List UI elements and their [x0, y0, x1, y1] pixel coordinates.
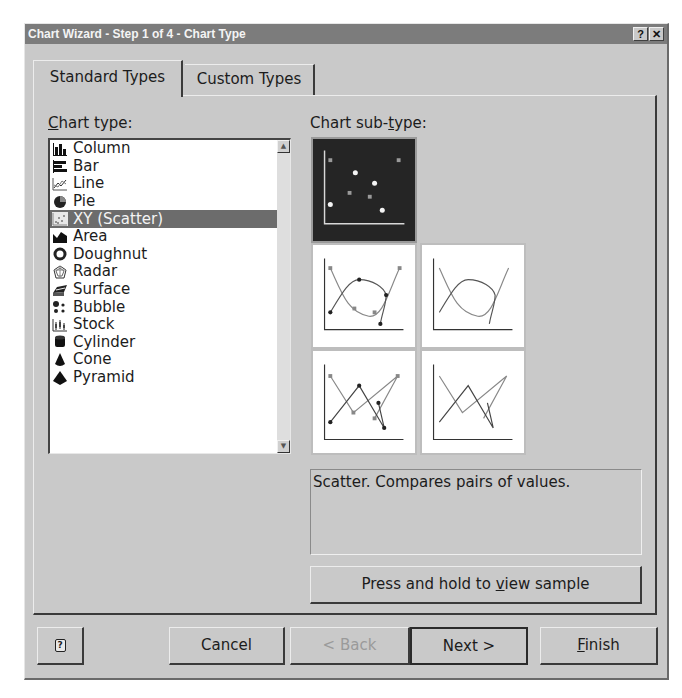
- list-item-label: Pie: [73, 193, 95, 210]
- scroll-up-button[interactable]: ▲: [277, 140, 290, 153]
- list-item-label: XY (Scatter): [73, 211, 163, 228]
- column-chart-icon: [52, 142, 68, 156]
- description-text: Scatter. Compares pairs of values.: [313, 473, 570, 491]
- back-button[interactable]: < Back: [290, 627, 410, 665]
- pie-chart-icon: [52, 195, 68, 209]
- list-item-label: Surface: [73, 281, 130, 298]
- list-item-label: Radar: [73, 263, 117, 280]
- scatter-chart-icon: [52, 212, 68, 226]
- tab-standard-types[interactable]: Standard Types: [33, 60, 183, 97]
- chart-type-listbox[interactable]: Column Bar Line Pie XY (Scatter): [48, 138, 291, 454]
- list-item-xy-scatter[interactable]: XY (Scatter): [50, 210, 279, 228]
- list-item-label: Bubble: [73, 299, 125, 316]
- list-item-bubble[interactable]: Bubble: [50, 298, 279, 316]
- chart-wizard-dialog: Chart Wizard - Step 1 of 4 - Chart Type …: [24, 23, 669, 680]
- scatter-lines-thumbnail-icon: [422, 351, 524, 453]
- stock-chart-icon: [52, 318, 68, 332]
- radar-chart-icon: [52, 265, 68, 279]
- pyramid-chart-icon: [52, 371, 68, 385]
- finish-button[interactable]: Finish: [540, 627, 658, 665]
- list-item-label: Column: [73, 140, 130, 157]
- line-chart-icon: [52, 177, 68, 191]
- tab-label: Custom Types: [197, 70, 302, 88]
- tab-label: Standard Types: [50, 68, 165, 86]
- list-item-label: Doughnut: [73, 246, 147, 263]
- close-button[interactable]: ✕: [649, 27, 664, 41]
- list-item-label: Area: [73, 228, 108, 245]
- list-item-pie[interactable]: Pie: [50, 193, 279, 211]
- list-item-cone[interactable]: Cone: [50, 351, 279, 369]
- subtype-scatter-markers[interactable]: [311, 137, 417, 243]
- list-item-radar[interactable]: Radar: [50, 263, 279, 281]
- cone-chart-icon: [52, 353, 68, 367]
- scroll-down-button[interactable]: ▼: [277, 440, 290, 453]
- subtype-scatter-smoothed-markers[interactable]: [311, 243, 417, 349]
- list-item-doughnut[interactable]: Doughnut: [50, 246, 279, 264]
- scatter-lines-markers-thumbnail-icon: [313, 351, 415, 453]
- chart-type-label: Chart type:: [48, 114, 133, 132]
- help-icon: ?: [55, 639, 66, 652]
- list-item-label: Cylinder: [73, 334, 135, 351]
- tab-custom-types[interactable]: Custom Types: [185, 64, 315, 95]
- window-title: Chart Wizard - Step 1 of 4 - Chart Type: [28, 27, 246, 41]
- list-scrollbar[interactable]: ▲ ▼: [277, 140, 290, 453]
- doughnut-chart-icon: [52, 247, 68, 261]
- list-item-label: Cone: [73, 351, 111, 368]
- subtype-scatter-lines-markers[interactable]: [311, 349, 417, 455]
- subtype-scatter-smoothed-lines[interactable]: [420, 243, 526, 349]
- scatter-smooth-lines-thumbnail-icon: [422, 245, 524, 347]
- list-item-label: Stock: [73, 316, 115, 333]
- view-sample-button[interactable]: Press and hold to view sample: [310, 566, 642, 604]
- list-item-label: Line: [73, 175, 104, 192]
- title-bar: Chart Wizard - Step 1 of 4 - Chart Type …: [25, 24, 667, 44]
- subtype-scatter-lines[interactable]: [420, 349, 526, 455]
- list-item-cylinder[interactable]: Cylinder: [50, 334, 279, 352]
- subtype-description: Scatter. Compares pairs of values.: [310, 469, 642, 555]
- list-item-label: Pyramid: [73, 369, 135, 386]
- next-button[interactable]: Next >: [410, 627, 528, 665]
- standard-types-panel: Chart type: Column Bar Line Pie: [33, 95, 657, 615]
- list-item-area[interactable]: Area: [50, 228, 279, 246]
- list-item-label: Bar: [73, 158, 99, 175]
- list-item-pyramid[interactable]: Pyramid: [50, 369, 279, 387]
- list-item-surface[interactable]: Surface: [50, 281, 279, 299]
- help-button[interactable]: ?: [37, 627, 84, 665]
- list-item-column[interactable]: Column: [50, 140, 279, 158]
- bar-chart-icon: [52, 159, 68, 173]
- cancel-button[interactable]: Cancel: [169, 627, 285, 665]
- area-chart-icon: [52, 230, 68, 244]
- scatter-markers-thumbnail-icon: [313, 139, 415, 241]
- title-help-button[interactable]: ?: [633, 27, 648, 41]
- list-item-bar[interactable]: Bar: [50, 158, 279, 176]
- surface-chart-icon: [52, 283, 68, 297]
- chart-subtype-label: Chart sub-type:: [310, 114, 427, 132]
- bubble-chart-icon: [52, 300, 68, 314]
- list-item-stock[interactable]: Stock: [50, 316, 279, 334]
- cylinder-chart-icon: [52, 335, 68, 349]
- scatter-smooth-markers-thumbnail-icon: [313, 245, 415, 347]
- list-item-line[interactable]: Line: [50, 175, 279, 193]
